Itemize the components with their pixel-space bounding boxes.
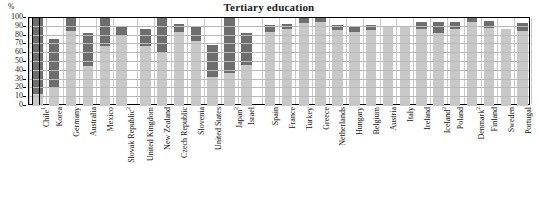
gridline-20 bbox=[29, 87, 529, 88]
x-tick-label: Austria bbox=[390, 107, 398, 131]
y-tick-mark-30 bbox=[23, 79, 26, 80]
bar-segment-lower bbox=[484, 28, 494, 106]
y-tick-mark-100 bbox=[23, 17, 26, 18]
bar-segment-upper bbox=[191, 26, 201, 41]
bar-segment-upper bbox=[116, 26, 126, 35]
x-tick-label: Poland bbox=[457, 107, 465, 129]
y-tick-mark-70 bbox=[23, 43, 26, 44]
x-tick-label: Czech Republic bbox=[181, 107, 189, 158]
x-tick-label: Belgium bbox=[373, 107, 381, 135]
y-tick-label-10: 10 bbox=[15, 92, 23, 100]
bar-segment-lower bbox=[501, 29, 511, 106]
y-tick-mark-20 bbox=[23, 87, 26, 88]
x-tick-label: Netherlands bbox=[339, 107, 347, 146]
bar-segment-upper bbox=[32, 18, 42, 94]
x-tick-label: United Kingdom bbox=[147, 107, 155, 161]
bar-segment-lower bbox=[282, 29, 292, 106]
x-tick-label: Sweden bbox=[508, 107, 516, 132]
bar-segment-upper bbox=[157, 18, 167, 53]
bar-segment-upper bbox=[49, 39, 59, 88]
x-tick-label: Slovenia bbox=[198, 107, 206, 135]
gridline-70 bbox=[29, 43, 529, 44]
footnote-marker: 2 bbox=[475, 107, 481, 110]
bar-segment-lower bbox=[224, 73, 234, 106]
bar-segment-lower bbox=[450, 29, 460, 106]
bar-segment-lower bbox=[299, 23, 309, 106]
y-tick-mark-10 bbox=[23, 96, 26, 97]
group-separator-13 bbox=[39, 17, 40, 105]
x-tick-label: United States bbox=[215, 107, 223, 150]
gridline-80 bbox=[29, 35, 529, 36]
gridline-50 bbox=[29, 61, 529, 62]
y-tick-label-90: 90 bbox=[15, 22, 23, 30]
x-tick-label: Korea bbox=[56, 107, 64, 127]
bar-segment-upper bbox=[241, 33, 251, 65]
y-axis-tick-labels: 0102030405060708090100 bbox=[0, 17, 26, 105]
x-tick-label: Iceland2 bbox=[440, 107, 452, 133]
x-tick-label: Italy bbox=[407, 107, 415, 122]
x-tick-label: Chile1 bbox=[39, 107, 51, 127]
x-tick-label: Finland bbox=[491, 107, 499, 131]
y-tick-label-80: 80 bbox=[15, 31, 23, 39]
y-tick-mark-0 bbox=[23, 105, 26, 106]
y-tick-mark-50 bbox=[23, 61, 26, 62]
x-tick-label: New Zealand bbox=[164, 107, 172, 150]
bar-segment-lower bbox=[383, 27, 393, 106]
x-tick-label: Japan2 bbox=[232, 107, 244, 128]
bar-segment-upper bbox=[433, 22, 443, 33]
gridline-10 bbox=[29, 96, 529, 97]
footnote-marker: 2 bbox=[441, 107, 447, 110]
y-tick-mark-80 bbox=[23, 35, 26, 36]
x-axis-category-labels: Chile1KoreaGermanyAustraliaMexicoSlovak … bbox=[28, 107, 530, 211]
y-tick-label-60: 60 bbox=[15, 48, 23, 56]
x-tick-label: Germany bbox=[73, 107, 81, 137]
y-tick-label-20: 20 bbox=[15, 83, 23, 91]
bar-segment-lower bbox=[400, 26, 410, 106]
footnote-marker: 1 bbox=[40, 107, 46, 110]
bar-segment-upper bbox=[100, 18, 110, 46]
x-tick-label: Portugal bbox=[525, 107, 533, 134]
y-tick-mark-40 bbox=[23, 70, 26, 71]
x-tick-label: Israel bbox=[248, 107, 256, 125]
chart-title: Tertiary education bbox=[0, 1, 538, 13]
chart-figure: % Tertiary education 0102030405060708090… bbox=[0, 0, 538, 211]
bar-segment-upper bbox=[66, 18, 76, 31]
bar-segment-lower bbox=[207, 77, 217, 106]
plot-area bbox=[28, 17, 530, 105]
y-tick-label-50: 50 bbox=[15, 57, 23, 65]
x-tick-label: Hungary bbox=[356, 107, 364, 135]
y-tick-label-40: 40 bbox=[15, 66, 23, 74]
y-tick-label-70: 70 bbox=[15, 39, 23, 47]
bar-segment-lower bbox=[332, 30, 342, 106]
x-tick-label: Australia bbox=[90, 107, 98, 136]
bar-segment-lower bbox=[49, 88, 59, 106]
bar-segment-lower bbox=[366, 30, 376, 106]
bar-segment-lower bbox=[241, 65, 251, 106]
y-tick-mark-90 bbox=[23, 26, 26, 27]
gridline-30 bbox=[29, 79, 529, 80]
x-tick-label: Slovak Republic2 bbox=[124, 107, 136, 163]
gridline-40 bbox=[29, 70, 529, 71]
y-tick-mark-60 bbox=[23, 52, 26, 53]
group-separator-6 bbox=[32, 17, 33, 105]
x-tick-label: Turkey bbox=[306, 107, 314, 130]
bar-segment-lower bbox=[416, 29, 426, 106]
bar-segment-upper bbox=[517, 23, 527, 31]
footnote-marker: 2 bbox=[125, 107, 131, 110]
gridline-90 bbox=[29, 26, 529, 27]
x-tick-label: Mexico bbox=[107, 107, 115, 131]
column-rule bbox=[531, 18, 532, 104]
y-tick-label-30: 30 bbox=[15, 75, 23, 83]
x-tick-label: Ireland bbox=[424, 107, 432, 130]
gridline-60 bbox=[29, 52, 529, 53]
x-tick-label: Spain bbox=[272, 107, 280, 125]
x-tick-label: Greece bbox=[323, 107, 331, 130]
x-tick-label: France bbox=[289, 107, 297, 129]
footnote-marker: 2 bbox=[233, 107, 239, 110]
y-tick-label-100: 100 bbox=[11, 13, 23, 21]
bar-segment-lower bbox=[83, 66, 93, 106]
x-tick-label: Denmark2 bbox=[474, 107, 486, 140]
